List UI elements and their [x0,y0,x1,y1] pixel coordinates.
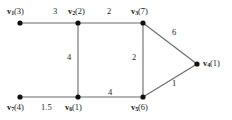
edge-v3-v4 [143,23,197,64]
graph-edges [20,23,197,97]
edge-weight-v5-v6: 4 [108,88,112,97]
vertex-v6 [75,94,80,99]
vertex-label-v7: v7(4) [7,103,24,112]
edge-v4-v5 [143,64,197,97]
vertex-v3 [140,20,145,25]
vertex-v2 [75,20,80,25]
vertex-label-v3: v3(7) [131,7,148,16]
vertex-label-v5: v5(6) [131,103,148,112]
edge-weight-v1-v2: 3 [53,7,57,16]
vertex-label-v1: v1(3) [7,7,24,16]
vertex-v5 [140,94,145,99]
edge-weight-v2-v3: 2 [107,7,111,16]
edge-weight-v3-v4: 6 [172,28,176,37]
edge-weight-v6-v7: 1.5 [41,103,52,112]
vertex-v1 [17,20,22,25]
edge-weight-v4-v5: 1 [172,79,176,88]
vertex-v7 [17,94,22,99]
vertex-label-v4: v4(1) [203,59,220,68]
edge-weight-v3-v5: 2 [132,53,136,62]
vertex-label-v6: v6(1) [65,103,82,112]
graph-figure: v1(3) v2(2) v3(7) v4(1) v5(6) v6(1) v7(4… [0,0,232,120]
edge-weight-v2-v6: 4 [67,53,71,62]
graph-canvas [0,0,232,120]
vertex-v4 [194,61,199,66]
vertex-label-v2: v2(2) [68,7,85,16]
